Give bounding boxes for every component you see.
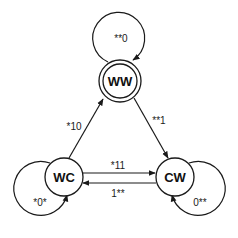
edge-ww-to-cw: **1 <box>134 98 168 158</box>
node-label-ww: WW <box>108 74 133 89</box>
edge-ww-self-loop: **0 <box>93 12 145 62</box>
node-label-wc: WC <box>53 170 75 185</box>
edge-label-cw-cw: 0** <box>193 197 206 208</box>
node-ww: WW <box>99 60 141 102</box>
edge-cw-to-wc: 1** <box>83 183 156 199</box>
edge-label-wc-ww: *10 <box>66 121 81 132</box>
state-diagram: **0 WW *10 **1 *11 1** *0* WC 0** <box>0 0 238 238</box>
node-wc: WC <box>45 158 83 196</box>
node-cw: CW <box>156 158 194 196</box>
edge-wc-to-ww: *10 <box>66 99 103 158</box>
edge-label-ww-cw: **1 <box>152 115 166 126</box>
edge-label-cw-wc: 1** <box>111 188 124 199</box>
edge-wc-to-cw: *11 <box>82 160 155 173</box>
edge-label-wc-cw: *11 <box>111 160 126 171</box>
edge-label-wc-wc: *0* <box>33 197 46 208</box>
node-label-cw: CW <box>164 170 186 185</box>
edge-label-ww-ww: **0 <box>114 33 128 44</box>
